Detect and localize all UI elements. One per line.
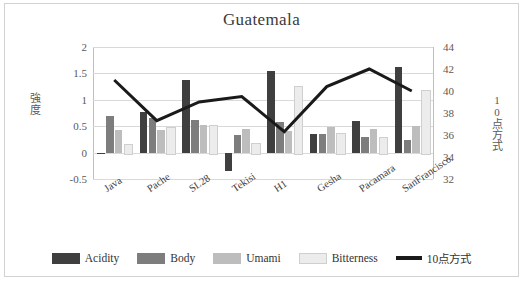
legend-color-swatch: [213, 253, 241, 264]
right-axis-line: [433, 47, 434, 179]
legend-color-swatch: [137, 253, 165, 264]
secondary-y-axis-tick: 40: [443, 85, 483, 97]
chart-title: Guatemala: [5, 10, 518, 30]
category-label-h1: H1: [272, 178, 289, 194]
y-axis-tick: -0.5: [47, 173, 87, 185]
legend-label: Umami: [246, 252, 281, 264]
y-axis-tick: 2: [47, 41, 87, 53]
y-axis-tick: 1.5: [47, 67, 87, 79]
legend-item-10点方式[interactable]: 10点方式: [396, 250, 472, 266]
secondary-y-axis-label: 10点方式: [489, 94, 505, 151]
legend-line-swatch: [396, 256, 422, 260]
plot-area: [93, 47, 433, 179]
y-axis-tick: 0: [47, 147, 87, 159]
secondary-y-axis-tick: 32: [443, 173, 483, 185]
y-axis-tick: 1: [47, 94, 87, 106]
secondary-y-axis-tick: 42: [443, 63, 483, 75]
chart-legend: AcidityBodyUmamiBitterness10点方式: [5, 250, 518, 266]
legend-label: Acidity: [85, 252, 120, 264]
legend-label: 10点方式: [427, 250, 472, 266]
y-axis-tick: 0.5: [47, 120, 87, 132]
legend-label: Bitterness: [332, 252, 378, 264]
legend-color-swatch: [299, 253, 327, 264]
legend-item-umami[interactable]: Umami: [213, 252, 281, 264]
line-10ten-houshiki: [114, 69, 412, 132]
secondary-y-axis-tick: 44: [443, 41, 483, 53]
legend-item-body[interactable]: Body: [137, 252, 195, 264]
legend-label: Body: [170, 252, 195, 264]
legend-item-acidity[interactable]: Acidity: [52, 252, 120, 264]
y-axis-label: 強度: [27, 92, 43, 116]
line-series: [93, 47, 433, 179]
legend-item-bitterness[interactable]: Bitterness: [299, 252, 378, 264]
chart-screenshot: Guatemala 強度 10点方式 21.510.50-0.5 4442403…: [0, 0, 525, 283]
chart-frame: Guatemala 強度 10点方式 21.510.50-0.5 4442403…: [4, 3, 519, 277]
secondary-y-axis-tick: 36: [443, 129, 483, 141]
secondary-y-axis-tick: 38: [443, 107, 483, 119]
legend-color-swatch: [52, 253, 80, 264]
